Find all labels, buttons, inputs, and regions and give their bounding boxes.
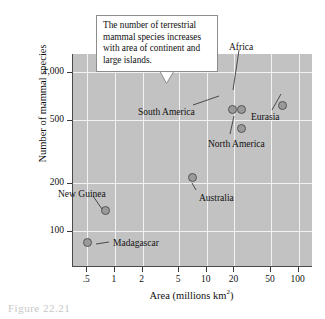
point-label-south-america: South America [138,108,195,118]
y-tick-mark [67,72,72,73]
data-point-madagascar[interactable] [83,238,92,247]
gridline-vertical [207,54,208,266]
x-axis-title-tail: ) [230,290,234,301]
gridline-vertical [234,54,235,266]
data-point-new-guinea[interactable] [101,206,110,215]
gridline-vertical [299,54,300,266]
gridline-vertical [179,54,180,266]
callout-text: The number of terrestrial mammal species… [103,20,201,65]
plot-area [72,54,312,267]
gridline-vertical [87,54,88,266]
x-tick-mark [86,267,87,272]
x-tick-mark [233,267,234,272]
y-tick-label: 100 [18,226,64,236]
y-tick-mark [67,120,72,121]
x-tick-mark [298,267,299,272]
y-tick-mark [67,231,72,232]
x-tick-mark [178,267,179,272]
x-axis-title: Area (millions km2) [72,288,311,301]
x-tick-label: 20 [213,275,253,285]
gridline-vertical [143,54,144,266]
x-tick-mark [114,267,115,272]
figure-caption-remnant: Figure 22.21 [8,302,70,314]
point-label-eurasia: Eurasia [251,113,280,123]
gridlines [73,54,312,266]
data-point-south-america[interactable] [228,105,237,114]
scatter-plot-figure: 1,000500200100 .5125102050100 Madagascar… [0,0,325,319]
gridline-vertical [271,54,272,266]
x-tick-mark [142,267,143,272]
point-label-north-america: North America [208,140,265,150]
point-label-africa: Africa [229,43,253,53]
data-point-eurasia[interactable] [278,101,287,110]
x-tick-mark [206,267,207,272]
point-label-madagascar: Madagascar [113,239,159,249]
x-tick-label: 2 [122,275,162,285]
gridline-horizontal [73,72,312,73]
callout-box: The number of terrestrial mammal species… [96,15,218,72]
y-axis-title: Number of mammal species [37,24,48,184]
gridline-horizontal [73,183,312,184]
x-tick-mark [270,267,271,272]
x-tick-label: 100 [278,275,318,285]
gridline-horizontal [73,231,312,232]
x-axis-title-base: Area (millions km [150,290,227,301]
y-tick-mark [67,183,72,184]
gridline-vertical [115,54,116,266]
point-label-new-guinea: New Guinea [58,190,106,200]
point-label-australia: Australia [199,194,234,204]
